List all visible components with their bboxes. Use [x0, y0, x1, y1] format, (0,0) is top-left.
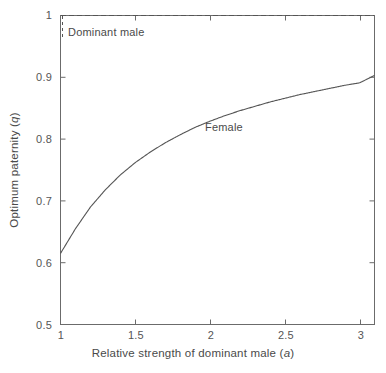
plot-frame — [61, 16, 375, 325]
y-axis-title: Optimum paternity (q) — [8, 112, 20, 227]
ytick-label-0.6: 0.6 — [18, 257, 52, 269]
xtick-label-1.5: 1.5 — [128, 329, 144, 341]
y-axis-title-variable: q — [8, 116, 20, 123]
ytick-label-0.7: 0.7 — [18, 195, 52, 207]
x-axis-title-main: Relative strength of dominant male ( — [92, 347, 284, 359]
chart-plot-area — [0, 0, 386, 373]
x-axis-title: Relative strength of dominant male (a) — [92, 347, 295, 359]
x-axis-title-end: ) — [290, 347, 294, 359]
figure-container: 1 0.9 0.8 0.7 0.6 0.5 1 1.5 2 2.5 3 Rela… — [0, 0, 386, 373]
ytick-label-1: 1 — [18, 9, 52, 21]
xtick-label-3: 3 — [358, 329, 364, 341]
y-axis-title-end: ) — [8, 112, 20, 116]
ytick-label-0.5: 0.5 — [18, 319, 52, 331]
ytick-label-0.9: 0.9 — [18, 71, 52, 83]
annotation-dominant-male: Dominant male — [68, 26, 145, 38]
xtick-label-2: 2 — [208, 329, 214, 341]
ytick-label-0.8: 0.8 — [18, 133, 52, 145]
xtick-label-2.5: 2.5 — [278, 329, 294, 341]
xtick-label-1: 1 — [58, 329, 64, 341]
y-axis-title-main: Optimum paternity ( — [8, 123, 20, 228]
annotation-female: Female — [205, 121, 243, 133]
